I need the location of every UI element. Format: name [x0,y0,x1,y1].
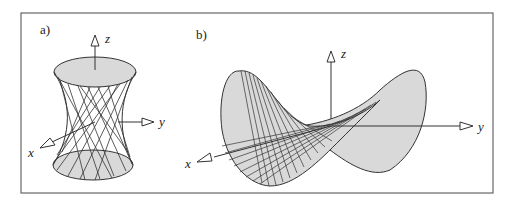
panel-a: a) z y [27,22,165,180]
z-axis-label-a: z [104,31,110,46]
y-arrow-a [142,118,154,126]
z-axis-label-b: z [340,46,346,61]
hyperboloid-bottom-disk [53,150,133,180]
x-arrow-a [40,138,55,148]
hyperboloid-left-edge [53,72,67,165]
panel-a-label: a) [40,22,50,37]
y-arrow-b [460,122,473,130]
x-axis-label-b: x [184,156,191,171]
y-axis-label-a: y [157,114,165,129]
z-arrow-a [91,35,99,46]
x-axis-label-a: x [27,145,34,160]
y-axis-label-b: y [476,119,484,134]
x-arrow-b [197,153,212,162]
panel-b-label: b) [196,27,207,42]
z-arrow-b [327,51,335,62]
panel-b: b) z [184,27,484,186]
figure-canvas: a) z y [0,0,508,202]
